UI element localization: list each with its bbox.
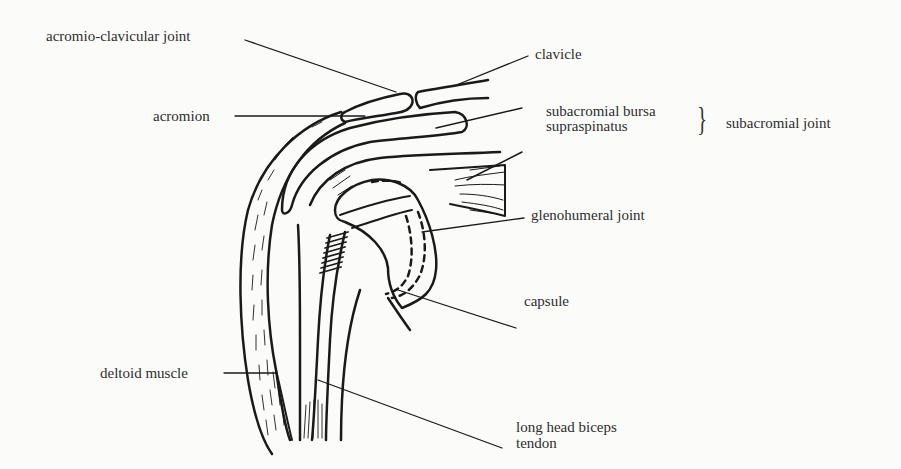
label-supraspinatus: supraspinatus (546, 119, 628, 134)
label-subacromial-joint: subacromial joint (726, 115, 831, 131)
humeral-head-shape (335, 180, 436, 308)
label-capsule: capsule (524, 293, 569, 309)
label-tendon: tendon (516, 436, 557, 451)
label-subacromial-bursa: subacromial bursa (546, 104, 656, 119)
humerus-shaft (341, 290, 360, 440)
label-glenohumeral-joint: glenohumeral joint (531, 207, 645, 223)
label-deltoid-muscle: deltoid muscle (100, 365, 188, 381)
brace-symbol: } (697, 102, 707, 136)
deltoid-muscle-shape (240, 112, 345, 454)
label-long-head-biceps: long head biceps (516, 420, 617, 435)
shoulder-anatomy-drawing (0, 0, 901, 469)
label-clavicle: clavicle (535, 46, 582, 62)
label-acromion: acromion (153, 108, 210, 124)
capsule-dashed (392, 212, 425, 298)
clavicle-shape (416, 80, 488, 108)
label-acromio-clavicular-joint: acromio-clavicular joint (46, 28, 191, 44)
